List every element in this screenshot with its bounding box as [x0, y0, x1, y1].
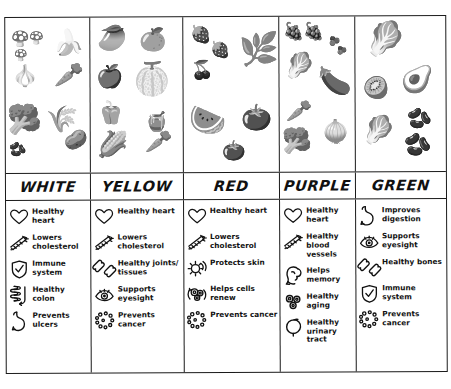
column-yellow: 🥭🍊🍎🍈🫑🍯🌽🥕 — [91, 17, 184, 172]
rhubarb-icon: 🌿 — [239, 33, 279, 65]
benefit-label: Lowers cholesterol — [210, 231, 277, 251]
color-header-yellow: YELLOW — [101, 178, 173, 194]
benefit-item: Healthy heart — [9, 206, 88, 227]
kiwi-icon: 🥝 — [363, 78, 389, 99]
bone-icon — [95, 258, 115, 278]
benefit-item: Helps memory — [283, 264, 353, 285]
lettuce-icon: 🥬 — [365, 22, 406, 55]
benefit-label: Prevents cancer — [118, 309, 181, 329]
benefit-label: Immune system — [32, 258, 88, 278]
artery-icon — [95, 232, 115, 252]
produce-group-red: 🍓🍓🍒🌿🍉🍅🍅 — [183, 17, 279, 172]
column-red: RED — [184, 173, 280, 199]
benefit-label: Healthy aging — [307, 290, 354, 310]
column-purple: 🍇🍇🫐🫐🥬🍆🥕🥦🧅 — [279, 16, 355, 171]
heart-icon — [9, 207, 29, 227]
benefit-item: Healthy urinary tract — [284, 316, 354, 345]
cancer-cells-icon — [95, 310, 115, 330]
benefit-label: Healthy heart — [32, 206, 88, 226]
benefit-item: Prevents ulcers — [10, 310, 89, 331]
cancer-cells-icon — [359, 309, 379, 329]
benefit-item: Healthy heart — [283, 204, 353, 225]
color-header-green: GREEN — [371, 177, 431, 193]
benefit-item: Supports eyesight — [359, 230, 444, 251]
benefit-label: Healthy joints/ tissues — [118, 257, 181, 277]
benefit-label: Prevents cancer — [210, 309, 277, 320]
color-header-red: RED — [213, 178, 250, 194]
benefit-label: Healthy heart — [210, 205, 267, 216]
column-red: 🍓🍓🍒🌿🍉🍅🍅 — [183, 17, 280, 172]
benefit-item: Healthy joints/ tissues — [95, 257, 181, 278]
benefit-item: Healthy heart — [94, 205, 180, 226]
benefit-list-yellow: Healthy heartLowers cholesterolHealthy j… — [94, 205, 181, 370]
benefit-label: Protects skin — [210, 257, 265, 268]
artery-icon — [187, 232, 207, 252]
parsnip-icon: 🥕 — [53, 63, 83, 87]
heart-icon — [187, 206, 207, 226]
artery-icon — [9, 233, 29, 253]
benefit-label: Helps cells renew — [210, 283, 277, 303]
benefit-item: Supports eyesight — [95, 283, 181, 304]
bladder-icon — [284, 317, 304, 337]
benefit-label: Healthy urinary tract — [307, 316, 354, 345]
cropped-top-text — [0, 0, 451, 14]
produce-group-green: 🥬🥑🥝🥬🫘🫘 — [355, 16, 446, 171]
benefit-label: Healthy blood vessels — [306, 230, 353, 259]
mushroom-icon: 🍄 — [14, 50, 28, 61]
eat-the-rainbow-chart: 🍄🍄🍄🧄🍌🥕🥦🫘🌾🥔🥭🍊🍎🍈🫑🍯🌽🥕🍓🍓🍒🌿🍉🍅🍅🍇🍇🫐🫐🥬🍆🥕🥦🧅🥬🥑🥝🥬🫘🫘… — [4, 15, 448, 374]
color-header-row: WHITEYELLOWREDPURPLEGREEN — [6, 171, 446, 201]
shield-check-icon — [9, 259, 29, 279]
watermelon-icon: 🍉 — [189, 105, 226, 135]
cabbage-icon: 🥬 — [361, 116, 395, 143]
benefit-list-green: Improves digestionSupports eyesightHealt… — [359, 204, 445, 369]
avocado-icon: 🥑 — [401, 66, 433, 92]
benefit-item: Prevents cancer — [95, 309, 181, 330]
benefit-list-red: Healthy heartLowers cholesterol Protects… — [187, 205, 278, 370]
intestine-icon — [9, 285, 29, 305]
column-white: WHITE — [6, 174, 91, 200]
cells-icon — [284, 291, 304, 311]
benefit-label: Supports eyesight — [118, 283, 181, 303]
benefit-label: Healthy colon — [32, 284, 88, 304]
color-header-white: WHITE — [19, 179, 77, 195]
benefit-label: Prevents ulcers — [33, 310, 89, 330]
stomach-icon — [359, 205, 379, 225]
produce-illustration-row: 🍄🍄🍄🧄🍌🥕🥦🫘🌾🥔🥭🍊🍎🍈🫑🍯🌽🥕🍓🍓🍒🌿🍉🍅🍅🍇🍇🫐🫐🥬🍆🥕🥦🧅🥬🥑🥝🥬🫘🫘 — [5, 16, 446, 173]
eye-icon — [359, 231, 379, 251]
greenbean-icon: 🫘 — [407, 108, 432, 128]
mushroom-icon: 🍄 — [29, 32, 44, 44]
benefit-item: Healthy aging — [284, 290, 354, 311]
benefit-item: Healthy bones — [359, 256, 444, 277]
benefit-item: Lowers cholesterol — [187, 231, 277, 252]
eye-icon — [95, 284, 115, 304]
cabbage-icon: 🥬 — [283, 53, 314, 78]
berry-icon: 🫐 — [337, 46, 347, 54]
benefit-item: Lowers cholesterol — [95, 231, 181, 252]
produce-group-white: 🍄🍄🍄🧄🍌🥕🥦🫘🌾🥔 — [5, 18, 90, 173]
grapes-icon: 🍇 — [303, 23, 324, 40]
melon-icon: 🍈 — [132, 63, 172, 95]
benefit-item: Healthy blood vessels — [283, 230, 353, 259]
brain-icon — [283, 265, 303, 285]
column-purple: PURPLE — [280, 172, 356, 198]
benefit-item: Protects skin — [187, 257, 277, 278]
column-green: 🥬🥑🥝🥬🫘🫘 — [355, 16, 446, 171]
tomato-icon: 🍅 — [222, 141, 246, 160]
beans-icon: 🫘 — [9, 142, 26, 156]
benefit-item: Healthy colon — [9, 284, 88, 305]
shield-check-icon — [359, 283, 379, 303]
benefit-item: Immune system — [359, 282, 444, 303]
pepper-icon: 🫑 — [97, 101, 124, 123]
artery-icon — [283, 232, 303, 252]
column-white: Healthy heartLowers cholesterolImmune sy… — [6, 201, 92, 373]
carrot-icon: 🥕 — [145, 131, 172, 153]
benefit-label: Immune system — [382, 282, 444, 302]
column-yellow: Healthy heartLowers cholesterolHealthy j… — [91, 200, 184, 372]
benefit-label: Healthy bones — [382, 256, 442, 267]
column-green: Improves digestionSupports eyesightHealt… — [356, 199, 447, 371]
garlic-icon: 🧄 — [11, 66, 37, 87]
sun-icon — [187, 258, 207, 278]
carrot-icon: 🥕 — [286, 101, 312, 122]
stomach-icon — [10, 311, 30, 331]
benefit-label: Supports eyesight — [382, 230, 444, 250]
